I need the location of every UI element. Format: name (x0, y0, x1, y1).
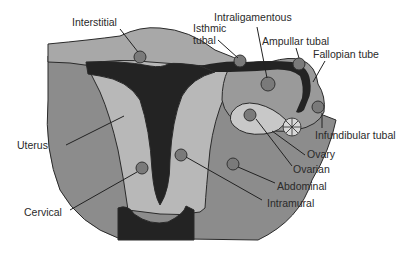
label-intramural: Intramural (267, 197, 314, 209)
site-abdominal (227, 158, 239, 170)
ectopic-pregnancy-diagram: Interstitial Isthmic tubal Intraligament… (0, 0, 414, 255)
site-interstitial (134, 51, 146, 63)
label-ovary: Ovary (307, 148, 336, 160)
site-ampullar (293, 58, 305, 70)
site-isthmic (234, 55, 246, 67)
site-cervical (136, 162, 148, 174)
label-abdominal: Abdominal (277, 180, 327, 192)
leader-ampullar (296, 48, 299, 58)
label-isthmic-1: Isthmic (193, 22, 226, 34)
label-uterus: Uterus (17, 139, 48, 151)
site-intramural (175, 149, 187, 161)
label-cervical: Cervical (24, 206, 62, 218)
label-intraligamentous: Intraligamentous (214, 11, 292, 23)
site-intraligamentous (261, 77, 275, 91)
label-fallopian: Fallopian tube (313, 48, 379, 60)
fimbriae (283, 118, 301, 136)
label-ovarian: Ovarian (293, 163, 330, 175)
label-interstitial: Interstitial (72, 16, 117, 28)
diagram-canvas: Interstitial Isthmic tubal Intraligament… (0, 0, 414, 255)
label-infundibular: Infundibular tubal (315, 129, 396, 141)
label-isthmic-2: tubal (193, 34, 216, 46)
label-ampullar: Ampullar tubal (262, 35, 329, 47)
site-ovarian (244, 109, 256, 121)
site-infundibular (312, 101, 324, 113)
